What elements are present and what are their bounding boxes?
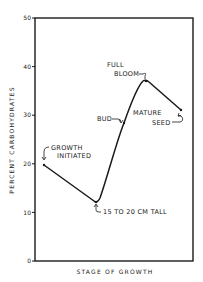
y-tick-label: 0 bbox=[27, 257, 31, 264]
data-line bbox=[44, 80, 181, 202]
annotation-mature-seed: MATURE SEED bbox=[133, 109, 183, 127]
point-mature-seed bbox=[180, 109, 182, 111]
annotation-bud: BUD bbox=[97, 115, 123, 123]
chart: 0 10 20 30 40 50 PERCENT CARBOHYDRATES S… bbox=[0, 0, 203, 282]
annotation-text: GROWTH bbox=[51, 144, 83, 152]
arrow-icon bbox=[96, 205, 101, 212]
annotation-text: 15 TO 20 CM TALL bbox=[103, 208, 167, 216]
plot-frame bbox=[35, 18, 193, 261]
point-bud bbox=[123, 122, 125, 124]
annotation-text: FULL bbox=[107, 61, 124, 69]
y-tick-label: 40 bbox=[23, 63, 31, 70]
annotation-text: INITIATED bbox=[57, 152, 91, 160]
annotation-text: MATURE bbox=[133, 109, 162, 117]
y-tick-label: 10 bbox=[23, 209, 31, 216]
arrow-icon bbox=[44, 147, 49, 159]
y-axis-title: PERCENT CARBOHYDRATES bbox=[8, 86, 15, 193]
arrow-icon bbox=[139, 73, 146, 79]
annotation-text: BLOOM bbox=[114, 70, 139, 78]
annotation-text: SEED bbox=[152, 119, 171, 127]
chart-svg: 0 10 20 30 40 50 PERCENT CARBOHYDRATES S… bbox=[0, 0, 203, 282]
point-full-bloom bbox=[145, 80, 147, 82]
point-growth-initiated bbox=[43, 164, 45, 166]
y-tick-label: 50 bbox=[23, 14, 31, 21]
y-axis: 0 10 20 30 40 50 bbox=[23, 14, 35, 264]
data-points bbox=[43, 80, 182, 203]
annotation-growth-initiated: GROWTH INITIATED bbox=[42, 144, 91, 160]
y-tick-label: 20 bbox=[23, 160, 31, 167]
y-tick-label: 30 bbox=[23, 111, 31, 118]
arrow-icon bbox=[172, 115, 183, 122]
x-axis-title: STAGE OF GROWTH bbox=[76, 268, 153, 275]
annotation-15-20cm-tall: 15 TO 20 CM TALL bbox=[94, 204, 167, 216]
point-15-20cm bbox=[95, 201, 97, 203]
annotation-full-bloom: FULL BLOOM bbox=[107, 61, 146, 79]
annotation-text: BUD bbox=[97, 115, 112, 123]
